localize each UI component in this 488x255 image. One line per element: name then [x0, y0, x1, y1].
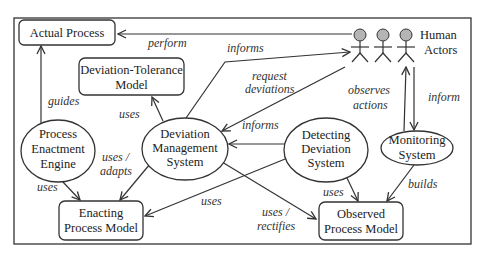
edge-label: rectifies [257, 219, 296, 233]
node-label: System [399, 148, 436, 162]
node-process-enactment-engine[interactable]: Process Enactment Engine [21, 120, 95, 182]
edge-label: deviations [245, 82, 295, 96]
edge-label: informs [227, 41, 264, 55]
actor-icon [374, 29, 392, 62]
edge-label: builds [408, 177, 438, 191]
node-label: Observed [337, 207, 386, 221]
node-label: Management [152, 141, 218, 155]
node-label: Human [420, 28, 458, 42]
node-label: Engine [40, 157, 76, 171]
edge-label: uses / [102, 150, 131, 164]
edge-label: uses [37, 180, 58, 194]
node-deviation-management-system[interactable]: Deviation Management System [142, 118, 228, 180]
edge-label: guides [48, 94, 80, 108]
node-label: Model [115, 78, 148, 92]
node-label: Deviation [301, 142, 351, 156]
edge-label: informs [242, 118, 279, 132]
edge-label: perform [147, 36, 187, 50]
node-detecting-deviation-system[interactable]: Detecting Deviation System [284, 118, 368, 182]
edge-observes-actions [404, 67, 406, 131]
node-observed-process-model[interactable]: Observed Process Model [319, 202, 403, 240]
node-label: Detecting [302, 128, 351, 142]
node-actual-process[interactable]: Actual Process [19, 20, 115, 45]
node-label: Enactment [31, 142, 85, 156]
actor-icon [397, 29, 415, 62]
node-label: Monitoring [389, 133, 447, 147]
edge-label: observes [348, 83, 390, 97]
edge-dms-uses-dtm [152, 97, 163, 121]
actor-icon [351, 29, 369, 62]
edge-label: uses [323, 185, 344, 199]
edge-dds-uses-opm [347, 178, 358, 201]
node-label: Process [39, 127, 77, 141]
node-label: System [167, 155, 204, 169]
node-label: Process Model [324, 222, 398, 236]
node-deviation-tolerance-model[interactable]: Deviation-Tolerance Model [79, 58, 184, 95]
edge-label: request [252, 69, 288, 83]
node-enacting-process-model[interactable]: Enacting Process Model [59, 201, 143, 240]
edge-label: actions [353, 98, 388, 112]
node-human-actors[interactable]: Human Actors [351, 28, 458, 62]
edge-pee-uses-epm [62, 181, 80, 200]
node-label: Enacting [79, 206, 124, 220]
node-monitoring-system[interactable]: Monitoring System [381, 131, 453, 165]
edge-label: inform [428, 90, 460, 104]
edge-label: uses [119, 107, 140, 121]
node-label: Deviation [160, 127, 210, 141]
edge-label: uses / [262, 205, 291, 219]
edge-label: uses [201, 194, 222, 208]
node-label: Actors [424, 43, 457, 57]
diagram-canvas: Actual Process Deviation-Tolerance Model… [0, 0, 488, 255]
node-label: Actual Process [30, 26, 105, 40]
edge-label: adapts [100, 164, 132, 178]
node-label: System [308, 156, 345, 170]
node-label: Process Model [64, 221, 138, 235]
node-label: Deviation-Tolerance [80, 63, 183, 77]
